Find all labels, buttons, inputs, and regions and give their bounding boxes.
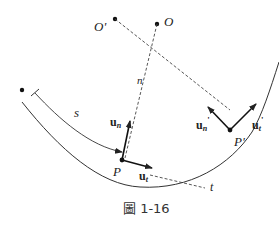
label-u-t-prime: ut' bbox=[252, 115, 263, 133]
dashed-normal-line-n bbox=[125, 24, 157, 158]
point-p-prime bbox=[228, 128, 233, 133]
label-o-prime: O' bbox=[94, 19, 106, 34]
label-u-n-prime: un' bbox=[196, 115, 210, 133]
point-p bbox=[120, 158, 125, 163]
dashed-line-o-prime-to-p-prime bbox=[115, 19, 230, 110]
start-point bbox=[20, 88, 24, 92]
arc-length-tick bbox=[31, 89, 39, 96]
label-u-n: un bbox=[110, 115, 122, 130]
arc-length-indicator bbox=[35, 93, 122, 152]
label-n: n bbox=[137, 74, 143, 86]
label-s: s bbox=[74, 105, 79, 120]
vector-u-t bbox=[122, 160, 152, 168]
label-o: O bbox=[164, 14, 174, 29]
label-p: P bbox=[112, 164, 121, 179]
label-u-t: ut bbox=[139, 169, 149, 184]
diagram-canvas: O' O n s un P ut t un' ut' P' 圖 1-16 bbox=[0, 0, 279, 227]
path-curve bbox=[22, 62, 279, 187]
label-t: t bbox=[210, 180, 214, 194]
vector-u-n-prime bbox=[208, 107, 230, 130]
dashed-tangent-line-t bbox=[150, 175, 205, 188]
label-p-prime: P' bbox=[233, 134, 245, 149]
figure-caption: 圖 1-16 bbox=[123, 201, 170, 216]
vector-u-n bbox=[122, 121, 130, 160]
